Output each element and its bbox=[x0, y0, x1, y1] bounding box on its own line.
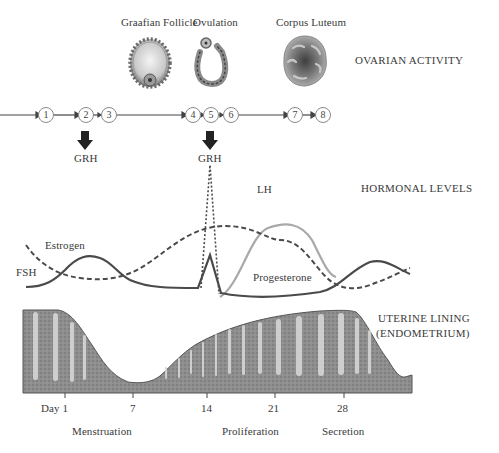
day-axis-ticks bbox=[65, 393, 344, 398]
day-tick-label-14: 14 bbox=[201, 402, 212, 414]
uterine-glands bbox=[33, 312, 371, 382]
day-tick-label-1: Day 1 bbox=[41, 402, 68, 414]
phase-menstruation-label: Menstruation bbox=[72, 425, 132, 437]
day-tick-label-28: 28 bbox=[337, 402, 348, 414]
day-tick-label-21: 21 bbox=[268, 402, 279, 414]
endometrium-heading: (ENDOMETRIUM) bbox=[376, 327, 470, 339]
endometrium-shape bbox=[23, 310, 412, 393]
day-tick-label-7: 7 bbox=[130, 402, 136, 414]
uterine-lining-heading: UTERINE LINING bbox=[378, 312, 470, 324]
phase-secretion-label: Secretion bbox=[322, 425, 364, 437]
phase-proliferation-label: Proliferation bbox=[222, 425, 279, 437]
uterine-lining-illustration bbox=[0, 0, 499, 453]
